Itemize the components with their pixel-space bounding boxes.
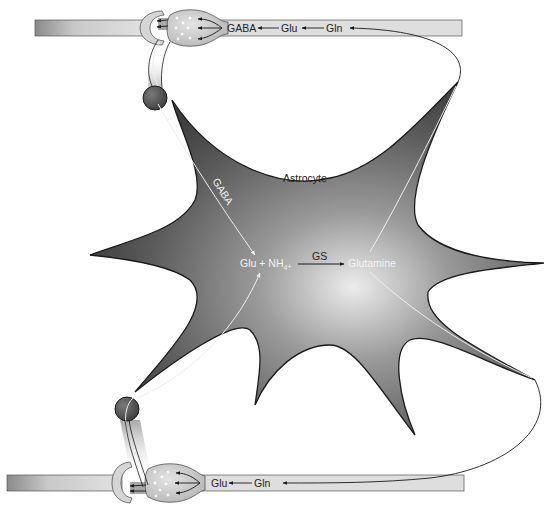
reaction-charge: + <box>287 263 291 270</box>
bottom-glu-label: Glu <box>211 477 228 489</box>
astrocyte-label: Astrocyte <box>283 172 327 184</box>
reaction-product: Glutamine <box>348 257 396 269</box>
top-endfoot-circle <box>143 86 167 110</box>
glutamate-glutamine-cycle-diagram: GABA Glu Gln Glu Gln <box>0 0 558 507</box>
top-gaba-label: GABA <box>227 22 256 34</box>
bottom-gln-label: Gln <box>254 477 271 489</box>
top-astrocyte-endfoot <box>143 40 170 110</box>
top-glu-label: Glu <box>281 22 298 34</box>
top-gln-label: Gln <box>326 22 343 34</box>
bottom-neuron: Glu Gln <box>7 380 541 503</box>
bottom-postsynaptic-process <box>7 475 122 491</box>
reaction-substrate-text: Glu + NH <box>240 257 283 269</box>
top-postsynaptic-process <box>35 20 145 36</box>
top-neuron: GABA Glu Gln <box>35 10 462 82</box>
enzyme-gs-label: GS <box>312 250 327 262</box>
